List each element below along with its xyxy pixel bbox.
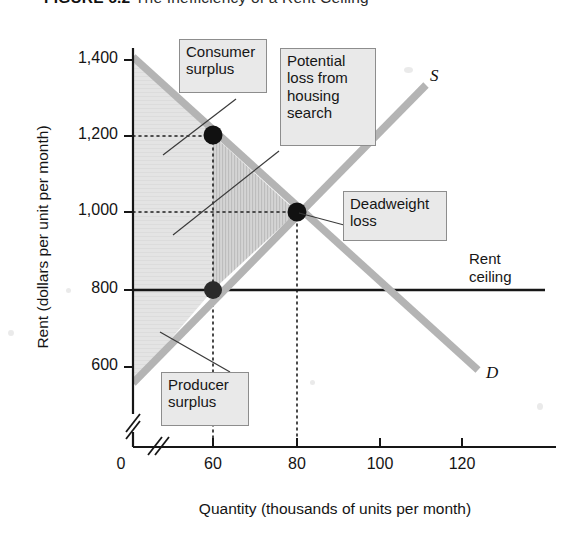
callout-producer-surplus: Producer surplus <box>161 372 249 426</box>
callout-consumer-surplus: Consumer surplus <box>179 39 267 93</box>
scan-speckle <box>8 330 14 336</box>
point-q60-r800 <box>204 281 222 299</box>
demand-curve-label: D <box>486 363 498 383</box>
scan-speckle <box>537 403 543 410</box>
origin-label: 0 <box>108 455 134 473</box>
y-axis-title: Rent (dollars per unit per month) <box>34 87 52 387</box>
point-equilibrium-q80-r1000 <box>288 203 307 222</box>
scan-speckle <box>404 67 413 73</box>
callout-deadweight-loss: Deadweight loss <box>343 191 447 241</box>
x-tick-label-100: 100 <box>356 455 404 473</box>
y-tick-label-1400: 1,400 <box>46 49 118 67</box>
scan-speckle <box>310 380 315 385</box>
x-axis-ticks <box>213 438 462 447</box>
callout-potential-loss-housing-search: Potential loss from housing search <box>280 48 376 146</box>
figure-root: FIGURE 6.2 The Inefficiency of a Rent Ce… <box>0 0 576 534</box>
label-rent-ceiling: Rent ceiling <box>469 250 549 285</box>
x-tick-label-60: 60 <box>193 455 233 473</box>
point-q60-r1200 <box>204 126 223 145</box>
scan-speckle <box>66 288 71 293</box>
x-tick-label-80: 80 <box>277 455 317 473</box>
y-tick-label-1200: 1,200 <box>46 125 118 143</box>
y-tick-label-1000: 1,000 <box>46 201 118 219</box>
x-axis-title: Quantity (thousands of units per month) <box>120 500 550 518</box>
supply-curve-label: S <box>430 66 439 86</box>
y-tick-label-600: 600 <box>46 356 118 374</box>
leader-producer-surplus <box>160 332 230 372</box>
y-tick-label-800: 800 <box>46 279 118 297</box>
x-tick-label-120: 120 <box>438 455 486 473</box>
y-axis-ticks <box>124 60 133 367</box>
